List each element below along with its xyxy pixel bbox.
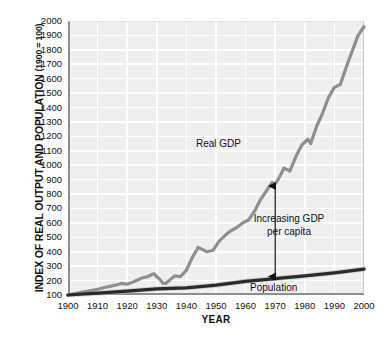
y-tick-label: 1400 xyxy=(28,103,62,113)
population-line xyxy=(68,269,364,295)
real-gdp-label: Real GDP xyxy=(196,138,241,149)
increasing-gdp-per-capita-label: Increasing GDP per capita xyxy=(253,213,325,238)
y-tick-label: 1600 xyxy=(28,74,62,84)
y-tick-label: 900 xyxy=(28,175,62,185)
population-label: Population xyxy=(250,282,297,293)
y-tick-label: 300 xyxy=(28,261,62,271)
real-gdp-line xyxy=(68,27,364,295)
y-tick-label: 1300 xyxy=(28,117,62,127)
y-tick-label: 700 xyxy=(28,203,62,213)
y-tick-label: 1200 xyxy=(28,131,62,141)
y-tick-label: 400 xyxy=(28,247,62,257)
y-tick-label: 1100 xyxy=(28,146,62,156)
y-tick-label: 200 xyxy=(28,276,62,286)
chart-page: INDEX OF REAL OUTPUT AND POPULATION(1900… xyxy=(0,0,388,342)
y-tick-label: 500 xyxy=(28,232,62,242)
y-tick-label: 800 xyxy=(28,189,62,199)
y-tick-label: 600 xyxy=(28,218,62,228)
y-tick-label: 1700 xyxy=(28,59,62,69)
y-tick-label: 1500 xyxy=(28,88,62,98)
x-axis-title: YEAR xyxy=(68,314,364,325)
y-tick-label: 1800 xyxy=(28,45,62,55)
y-tick-label: 2000 xyxy=(28,16,62,26)
y-tick-label: 1900 xyxy=(28,30,62,40)
y-tick-label: 100 xyxy=(28,290,62,300)
x-tick-label: 2000 xyxy=(347,300,381,311)
series-overlay xyxy=(68,21,364,295)
y-tick-label: 1000 xyxy=(28,160,62,170)
